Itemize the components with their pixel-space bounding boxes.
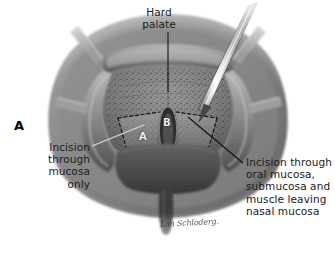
flap-marker-a: A — [139, 131, 147, 142]
label-hard-palate: Hard palate — [128, 6, 190, 30]
flap-marker-b: B — [163, 117, 171, 128]
label-incision-through-mucosa-only: Incision through mucosa only — [18, 141, 90, 190]
label-incision-through-oral-mucosa: Incision through oral mucosa, submucosa … — [246, 156, 334, 217]
panel-label-a: A — [14, 118, 24, 133]
medical-illustration-figure: Hard palate Incision through mucosa only… — [0, 0, 335, 254]
